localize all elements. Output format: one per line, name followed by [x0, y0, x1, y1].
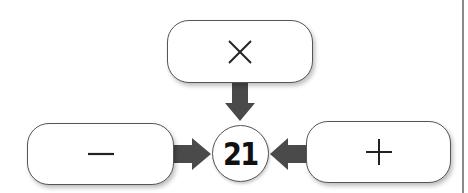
- arrow-right-icon: [173, 138, 211, 170]
- arrow-down-icon: [225, 83, 255, 121]
- plus-box[interactable]: [306, 121, 451, 183]
- multiply-icon: [227, 39, 253, 65]
- center-value: 21: [223, 135, 257, 173]
- arrow-left-icon: [270, 138, 307, 170]
- minus-icon: [88, 151, 114, 157]
- multiply-box[interactable]: [167, 20, 313, 83]
- center-value-circle: 21: [212, 125, 269, 182]
- frame-divider: [462, 0, 464, 193]
- minus-box[interactable]: [27, 123, 174, 185]
- plus-icon: [366, 139, 392, 165]
